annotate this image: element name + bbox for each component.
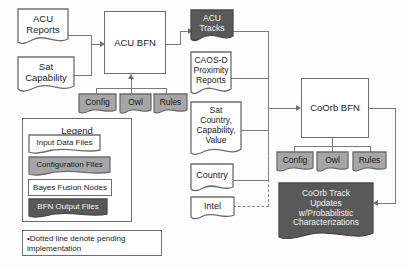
pending-implementation-note: •Dotted line denote pending implementati… [22,230,162,256]
node-coorb-bfn[interactable]: CoOrb BFN [301,78,369,138]
node-label: Config [283,156,308,166]
node-label: Owl [325,156,340,166]
legend-label: BFN Output Files [37,202,98,211]
connector-sat-capability-rise [91,44,92,76]
node-label: Rules [160,98,182,108]
node-label: Intel [204,201,221,211]
connector-acu-bfn-out-rise [180,31,181,45]
node-label: Owl [128,98,143,108]
node-coorb-rules[interactable]: Rules [352,151,387,173]
connector-acu-bfn-out [166,44,181,45]
connector-sat-capability [72,75,92,76]
node-label-line: ACU [33,13,53,24]
legend-swatch-configuration-files: Configuration Files [28,156,111,177]
connector-coorb-config-bus-up [332,137,333,147]
legend-label: Bayes Fusion Nodes [33,183,107,192]
connector-intel-pending-h [233,206,269,207]
node-coorb-owl[interactable]: Owl [316,151,349,173]
legend-swatch-bayes-fusion-nodes: Bayes Fusion Nodes [28,179,112,196]
connector-coorb-bfn-out [369,108,396,109]
node-acu-config[interactable]: Config [78,93,117,115]
note-text: Dotted line denote pending implementatio… [27,234,125,253]
connector-acu-reports [66,35,92,36]
connector-caos-d-out [231,78,269,79]
node-caos-d-proximity-reports[interactable]: CAOS-D Proximity Reports [190,51,232,97]
node-coorb-config[interactable]: Config [276,151,314,173]
connector-sat-ccv-out [241,130,269,131]
connector-acu-tracks-out [233,31,269,32]
node-coorb-track-updates[interactable]: CoOrb Track Updates w/Probabilistic Char… [278,182,374,244]
node-label-line: Reports [196,76,226,86]
legend-swatch-bfn-output-files: BFN Output Files [28,198,108,219]
diagram-canvas: ACU Reports Sat Capability ACU BFN Confi… [0,0,408,268]
node-acu-bfn[interactable]: ACU BFN [104,11,166,74]
node-acu-reports[interactable]: ACU Reports [17,8,69,46]
node-label-line: Capability [25,72,67,83]
legend-swatch-input-data-files: Input Data Files [28,134,101,155]
node-label-line: Characterizations [293,218,359,228]
node-sat-capability[interactable]: Sat Capability [17,56,75,94]
connector-acu-reports-drop [91,35,92,44]
connector-bus-to-coorb-bfn [268,108,298,109]
node-label: Config [85,98,110,108]
node-label-line: Tracks [199,24,224,34]
node-acu-tracks[interactable]: ACU Tracks [190,9,234,43]
connector-intel-pending-v [268,130,269,207]
node-label-line: Reports [26,24,59,35]
connector-acu-config-bus-up [131,79,132,89]
connector-country-out [232,180,269,181]
legend-label: Input Data Files [36,138,92,147]
node-label-line: Sat [39,61,53,72]
node-label: CoOrb BFN [310,102,360,113]
node-acu-owl[interactable]: Owl [119,93,152,115]
node-sat-country-capability-value[interactable]: Sat Country, Capability, Value [190,101,242,159]
node-label-line: Value [205,136,226,146]
node-label: Rules [359,156,381,166]
node-label: ACU BFN [114,37,156,48]
connector-coorb-out-drop [395,108,396,203]
connector-coorb-out-to-output [376,203,396,204]
node-label: Country [196,170,228,180]
node-acu-rules[interactable]: Rules [153,93,188,115]
arrow-acu-config-into-bfn [128,74,134,79]
legend-label: Configuration Files [36,160,103,169]
node-country[interactable]: Country [190,163,234,193]
node-intel[interactable]: Intel [190,196,235,221]
